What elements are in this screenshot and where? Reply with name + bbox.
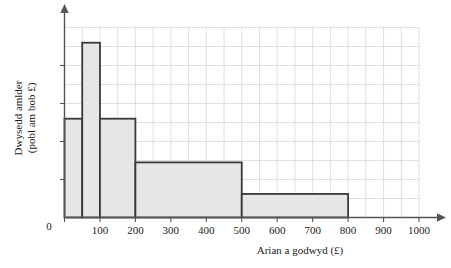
y-axis-title-line1: Dwysedd amlder [12, 80, 24, 155]
histogram-bar-3 [135, 162, 241, 217]
histogram-bar-4 [242, 194, 348, 218]
x-tick-label: 400 [198, 224, 215, 236]
x-axis-arrow-icon [437, 213, 446, 221]
histogram-bar-0 [65, 119, 83, 218]
histogram-bar-1 [82, 43, 100, 218]
x-tick-label: 300 [163, 224, 180, 236]
y-axis-arrow-icon [60, 4, 68, 13]
x-tick-label: 600 [269, 224, 286, 236]
x-tick-label: 100 [92, 224, 109, 236]
chart-canvas: 1002003004005006007008009001000 0 Arian … [0, 0, 451, 268]
x-tick-label: 1000 [408, 224, 431, 236]
x-tick-label: 500 [234, 224, 251, 236]
x-tick-label: 700 [304, 224, 321, 236]
histogram-bar-2 [100, 119, 135, 218]
y-axis-title-line2: (pobl am bob £) [25, 82, 38, 153]
x-axis-title: Arian a godwyd (£) [257, 244, 344, 257]
x-axis-tick-labels: 1002003004005006007008009001000 [92, 224, 431, 236]
histogram-figure: 1002003004005006007008009001000 0 Arian … [0, 0, 451, 268]
x-tick-label: 800 [340, 224, 357, 236]
x-tick-label: 200 [127, 224, 144, 236]
origin-label: 0 [46, 220, 52, 232]
x-tick-label: 900 [375, 224, 392, 236]
